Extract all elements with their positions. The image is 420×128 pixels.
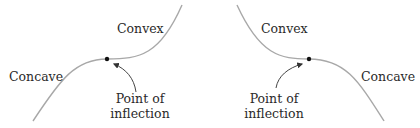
left-inflection-label-line1: Point of bbox=[110, 92, 170, 106]
right-convex-label: Convex bbox=[261, 22, 308, 36]
inflection-diagram: Convex Concave Point of inflection Conve… bbox=[0, 0, 420, 128]
left-convex-label: Convex bbox=[117, 22, 164, 36]
diagram-graphics bbox=[0, 0, 420, 128]
right-inflection-arrow bbox=[276, 64, 302, 88]
left-inflection-label-line2: inflection bbox=[110, 107, 170, 121]
left-inflection-arrow bbox=[114, 64, 136, 92]
left-concave-label: Concave bbox=[9, 70, 63, 84]
right-inflection-dot bbox=[307, 57, 311, 61]
left-inflection-dot bbox=[105, 57, 109, 61]
right-inflection-label-line2: inflection bbox=[244, 107, 304, 121]
right-concave-label: Concave bbox=[361, 70, 415, 84]
right-inflection-label-line1: Point of bbox=[244, 92, 304, 106]
